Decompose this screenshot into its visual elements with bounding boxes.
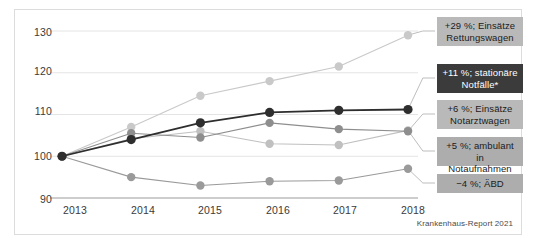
data-point bbox=[404, 31, 412, 39]
data-point bbox=[403, 105, 412, 114]
x-tick-2018: 2018 bbox=[393, 204, 433, 216]
callout-aebd: −4 %; ÄBD bbox=[437, 174, 523, 193]
callout-ambulant-notaufnahmen: +5 %; ambulant in Notaufnahmen bbox=[437, 137, 523, 166]
data-point bbox=[196, 118, 205, 127]
x-tick-2013: 2013 bbox=[55, 204, 95, 216]
data-point bbox=[404, 127, 412, 135]
data-point bbox=[57, 152, 66, 161]
data-point bbox=[196, 92, 204, 100]
x-tick-2016: 2016 bbox=[258, 204, 298, 216]
x-tick-2017: 2017 bbox=[325, 204, 365, 216]
data-point bbox=[265, 177, 273, 185]
y-tick-130: 130 bbox=[22, 26, 52, 38]
data-point bbox=[335, 125, 343, 133]
data-point bbox=[335, 62, 343, 70]
callout-rettungswagen: +29 %; Einsätze Rettungswagen bbox=[437, 17, 523, 46]
series-layer bbox=[57, 31, 412, 190]
series-line-0 bbox=[62, 35, 408, 156]
data-point bbox=[265, 140, 273, 148]
data-point bbox=[127, 135, 136, 144]
callout-leader-lines bbox=[408, 31, 435, 183]
leader-line-2 bbox=[408, 114, 435, 131]
leader-line-3 bbox=[408, 130, 435, 151]
callout-notarztwagen: +6 %; Einsätze Notarztwagen bbox=[437, 100, 523, 129]
y-tick-90: 90 bbox=[22, 193, 52, 205]
source-note: Krankenhaus-Report 2021 bbox=[417, 219, 513, 228]
leader-line-1 bbox=[408, 78, 435, 109]
x-tick-2015: 2015 bbox=[190, 204, 230, 216]
y-tick-100: 100 bbox=[22, 150, 52, 162]
data-point bbox=[265, 77, 273, 85]
data-point bbox=[127, 173, 135, 181]
series-line-4 bbox=[62, 156, 408, 185]
leader-line-4 bbox=[408, 169, 435, 183]
callout-stationaere-notfaelle: +11 %; stationäre Notfälle* bbox=[437, 64, 523, 93]
data-point bbox=[404, 165, 412, 173]
data-point bbox=[334, 106, 343, 115]
y-tick-110: 110 bbox=[22, 105, 52, 117]
series-line-1 bbox=[62, 109, 408, 156]
y-tick-120: 120 bbox=[22, 65, 52, 77]
data-point bbox=[265, 108, 274, 117]
data-point bbox=[335, 141, 343, 149]
data-point bbox=[196, 133, 204, 141]
x-tick-2014: 2014 bbox=[123, 204, 163, 216]
data-point bbox=[265, 119, 273, 127]
chart-figure: 130 120 110 100 90 2013 2014 2015 2016 2… bbox=[0, 0, 535, 245]
data-point bbox=[196, 181, 204, 189]
data-point bbox=[335, 176, 343, 184]
series-line-2 bbox=[62, 123, 408, 156]
